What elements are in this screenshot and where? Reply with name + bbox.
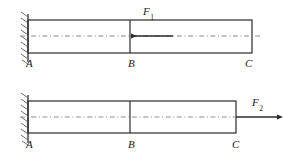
lower-node-label-C: C <box>232 139 239 150</box>
force-f1-symbol: F <box>143 5 150 17</box>
diagram-canvas <box>0 0 283 162</box>
lower-node-label-B: B <box>128 139 135 150</box>
upper-diagram <box>20 12 260 64</box>
force-f2-symbol: F <box>252 96 259 108</box>
upper-node-label-C: C <box>245 58 252 69</box>
lower-node-label-A: A <box>26 139 33 150</box>
upper-node-label-A: A <box>26 58 33 69</box>
force-f1-label: F1 <box>143 6 153 20</box>
upper-node-label-B: B <box>128 58 135 69</box>
force-f1-subscript: 1 <box>150 13 154 22</box>
force-f2-subscript: 2 <box>259 104 263 113</box>
force-f2-label: F2 <box>252 97 262 111</box>
engineering-diagram-figure: A B C F1 A B C F2 <box>0 0 283 162</box>
